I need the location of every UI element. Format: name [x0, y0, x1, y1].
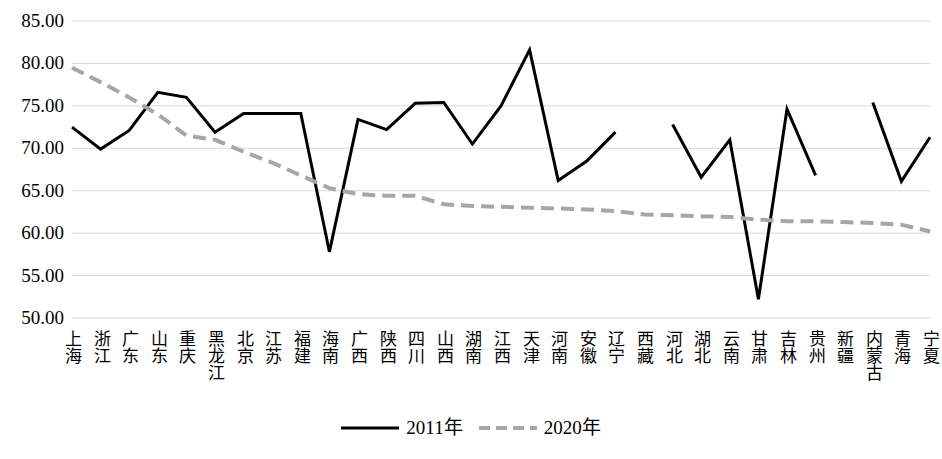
x-axis-tick-label: 宁夏 — [922, 330, 939, 364]
series-line-1 — [72, 50, 615, 252]
x-axis-tick-label: 青海 — [893, 330, 910, 364]
x-axis-tick-label: 山西 — [435, 330, 452, 364]
series-line-1 — [673, 109, 816, 299]
line-chart: 50.0055.0060.0065.0070.0075.0080.0085.00… — [0, 0, 942, 459]
x-axis-tick-label: 海南 — [321, 330, 338, 364]
legend-label: 2011年 — [406, 418, 462, 437]
x-axis-tick-label: 湖南 — [464, 330, 481, 364]
gridlines — [72, 21, 930, 318]
x-axis-tick-label: 西藏 — [636, 330, 653, 364]
y-axis-tick-label: 55.00 — [0, 266, 64, 285]
x-axis-tick-label: 上海 — [64, 330, 81, 364]
legend-swatch-1 — [341, 422, 399, 434]
x-axis-tick-label: 广东 — [121, 330, 138, 364]
x-axis-tick-label: 江西 — [493, 330, 510, 364]
x-axis-tick-label: 甘肃 — [750, 330, 767, 364]
x-axis-tick-label: 辽宁 — [607, 330, 624, 364]
x-axis-tick-label: 云南 — [721, 330, 738, 364]
y-axis-tick-label: 50.00 — [0, 308, 64, 327]
x-axis-tick-label: 浙江 — [92, 330, 109, 364]
legend-entry[interactable]: 2011年 — [341, 418, 462, 437]
legend-swatch-2 — [479, 422, 537, 434]
x-axis-tick-label: 黑龙江 — [207, 330, 224, 381]
y-axis-tick-label: 80.00 — [0, 53, 64, 72]
x-axis-tick-label: 江苏 — [264, 330, 281, 364]
x-axis-tick-label: 贵州 — [807, 330, 824, 364]
x-axis-tick-label: 四川 — [407, 330, 424, 364]
x-axis-tick-label: 北京 — [235, 330, 252, 364]
series-layer — [72, 50, 930, 299]
x-axis-tick-label: 新疆 — [836, 330, 853, 364]
y-axis-tick-label: 65.00 — [0, 181, 64, 200]
chart-legend: 2011年2020年 — [0, 418, 942, 437]
legend-label: 2020年 — [544, 418, 601, 437]
x-axis-tick-label: 内蒙古 — [864, 330, 881, 381]
y-axis-tick-label: 75.00 — [0, 96, 64, 115]
series-line-1 — [873, 102, 930, 181]
x-axis-tick-label: 天津 — [521, 330, 538, 364]
plot-area — [0, 0, 942, 459]
x-axis-tick-label: 湖北 — [693, 330, 710, 364]
series-line-2 — [72, 68, 930, 232]
x-axis-tick-label: 河北 — [664, 330, 681, 364]
x-axis-tick-label: 福建 — [292, 330, 309, 364]
legend-entry[interactable]: 2020年 — [479, 418, 601, 437]
y-axis-tick-label: 85.00 — [0, 11, 64, 30]
y-axis-tick-label: 70.00 — [0, 138, 64, 157]
y-axis-tick-label: 60.00 — [0, 223, 64, 242]
x-axis-tick-label: 重庆 — [178, 330, 195, 364]
x-axis-tick-label: 广西 — [350, 330, 367, 364]
x-axis-tick-label: 安徽 — [578, 330, 595, 364]
x-axis-tick-label: 吉林 — [779, 330, 796, 364]
x-axis-tick-label: 河南 — [550, 330, 567, 364]
x-axis-tick-label: 陕西 — [378, 330, 395, 364]
x-axis-tick-label: 山东 — [149, 330, 166, 364]
